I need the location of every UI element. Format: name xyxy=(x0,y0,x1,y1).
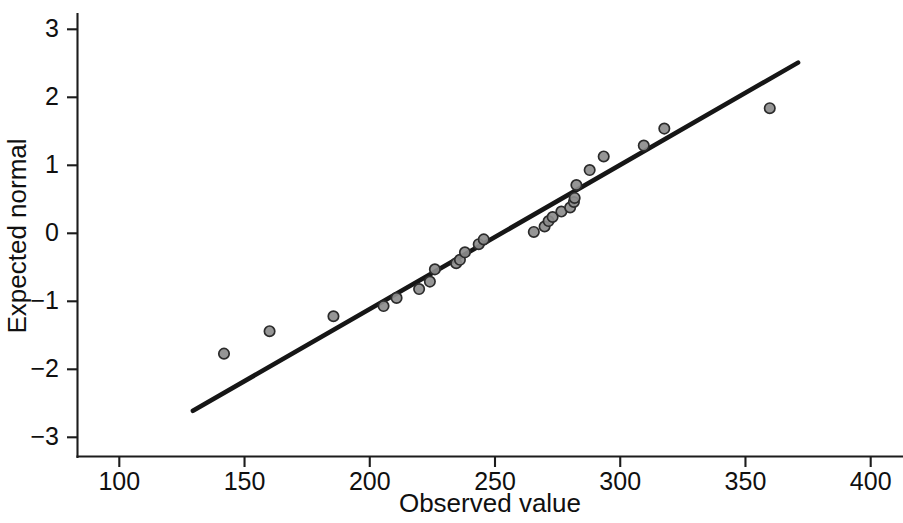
x-tick-label: 350 xyxy=(725,467,767,495)
y-tick-label: −2 xyxy=(30,354,59,382)
qq-plot-figure: 3210−1−2−3 100150200250300350400 Observe… xyxy=(0,0,903,523)
data-point xyxy=(378,301,388,311)
data-point xyxy=(599,151,609,161)
data-point xyxy=(219,348,229,358)
data-point xyxy=(328,311,338,321)
data-point xyxy=(529,227,539,237)
x-tick-label: 400 xyxy=(850,467,892,495)
y-tick-label: −3 xyxy=(30,422,59,450)
x-tick-label: 200 xyxy=(349,467,391,495)
y-axis-title: Expected normal xyxy=(2,138,32,333)
data-point xyxy=(765,103,775,113)
data-point xyxy=(425,276,435,286)
y-tick-label: 2 xyxy=(45,82,59,110)
data-point xyxy=(391,293,401,303)
data-point xyxy=(414,284,424,294)
data-point xyxy=(264,326,274,336)
data-point xyxy=(460,247,470,257)
y-tick-label: 1 xyxy=(45,150,59,178)
data-point xyxy=(430,264,440,274)
data-point xyxy=(479,234,489,244)
x-axis-title: Observed value xyxy=(399,488,581,518)
y-tick-label: −1 xyxy=(30,286,59,314)
data-point xyxy=(571,180,581,190)
x-tick-label: 150 xyxy=(224,467,266,495)
data-point xyxy=(569,193,579,203)
data-point xyxy=(639,140,649,150)
qq-plot-canvas: 3210−1−2−3 100150200250300350400 Observe… xyxy=(0,0,903,523)
x-tick-label: 300 xyxy=(599,467,641,495)
x-tick-label: 100 xyxy=(98,467,140,495)
data-point xyxy=(659,123,669,133)
y-tick-label: 0 xyxy=(45,218,59,246)
y-tick-label: 3 xyxy=(45,14,59,42)
data-point xyxy=(584,165,594,175)
